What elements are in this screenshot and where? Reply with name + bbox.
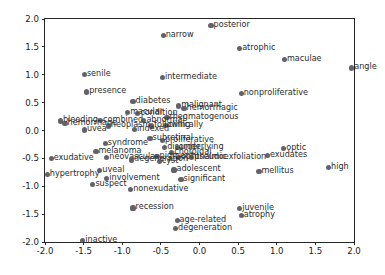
data-point-label: recession xyxy=(136,202,174,211)
data-point-label: pseudoexfoliation xyxy=(194,152,266,161)
data-point-label: senile xyxy=(87,69,111,78)
x-tick-mark xyxy=(122,242,123,245)
plot-data-area: posteriornarrowatrophicmaculaeanglesenil… xyxy=(45,19,354,242)
x-tick-label: -2.0 xyxy=(37,246,54,256)
y-tick-label: -1.0 xyxy=(22,181,39,191)
data-point-label: narrow xyxy=(166,30,194,39)
y-tick-label: 1.5 xyxy=(25,42,39,52)
x-tick-mark xyxy=(83,242,84,245)
data-point-label: degeneration xyxy=(178,223,232,232)
data-point-label: diabetes xyxy=(136,96,171,105)
plot-axes-frame: posteriornarrowatrophicmaculaeanglesenil… xyxy=(44,18,355,243)
data-point-label: nonexudative xyxy=(133,184,188,193)
y-tick-label: -2.0 xyxy=(22,237,39,247)
x-tick-label: 1.0 xyxy=(270,246,284,256)
data-point-label: nonproliferative xyxy=(244,88,308,97)
y-tick-label: 1.0 xyxy=(25,70,39,80)
y-tick-label: 0.5 xyxy=(25,98,39,108)
y-tick-label: 2.0 xyxy=(25,14,39,24)
data-point-label: involvement xyxy=(109,173,159,182)
y-tick-mark xyxy=(42,186,45,187)
scatter-plot-figure: posteriornarrowatrophicmaculaeanglesenil… xyxy=(0,0,385,275)
y-tick-label: -0.5 xyxy=(22,153,39,163)
x-tick-label: -0.5 xyxy=(152,246,169,256)
data-point-label: atrophic xyxy=(242,43,275,52)
data-point-label: uvea xyxy=(87,124,107,133)
x-tick-mark xyxy=(315,242,316,245)
y-tick-mark xyxy=(42,102,45,103)
y-tick-mark xyxy=(42,242,45,243)
data-point-label: angle xyxy=(354,62,376,71)
x-tick-mark xyxy=(354,242,355,245)
y-tick-mark xyxy=(42,19,45,20)
x-tick-label: 1.5 xyxy=(309,246,323,256)
data-point-label: inactive xyxy=(85,235,117,244)
data-point-label: mellitus xyxy=(261,166,293,175)
data-point-label: posterior xyxy=(214,20,250,29)
x-tick-label: 0.5 xyxy=(231,246,245,256)
y-tick-mark xyxy=(42,158,45,159)
data-point-label: maculae xyxy=(287,54,322,63)
x-tick-mark xyxy=(276,242,277,245)
data-point-label: intermediate xyxy=(165,72,217,81)
data-point-label: exudative xyxy=(54,153,94,162)
x-tick-label: -1.5 xyxy=(75,246,92,256)
y-tick-mark xyxy=(42,74,45,75)
data-point-label: high xyxy=(331,162,349,171)
x-tick-label: 0.0 xyxy=(193,246,207,256)
y-tick-label: 0.0 xyxy=(25,126,39,136)
data-point-label: atrophy xyxy=(244,210,275,219)
data-point-label: exudates xyxy=(270,150,307,159)
data-point-label: significant xyxy=(183,174,225,183)
data-point-label: presence xyxy=(89,86,126,95)
y-tick-mark xyxy=(42,214,45,215)
x-tick-mark xyxy=(238,242,239,245)
x-tick-label: -1.0 xyxy=(114,246,131,256)
x-tick-mark xyxy=(160,242,161,245)
x-tick-mark xyxy=(199,242,200,245)
y-tick-label: -1.5 xyxy=(22,209,39,219)
y-tick-mark xyxy=(42,46,45,47)
data-point-label: hypertrophy xyxy=(50,169,100,178)
x-tick-label: 2.0 xyxy=(347,246,361,256)
y-tick-mark xyxy=(42,130,45,131)
